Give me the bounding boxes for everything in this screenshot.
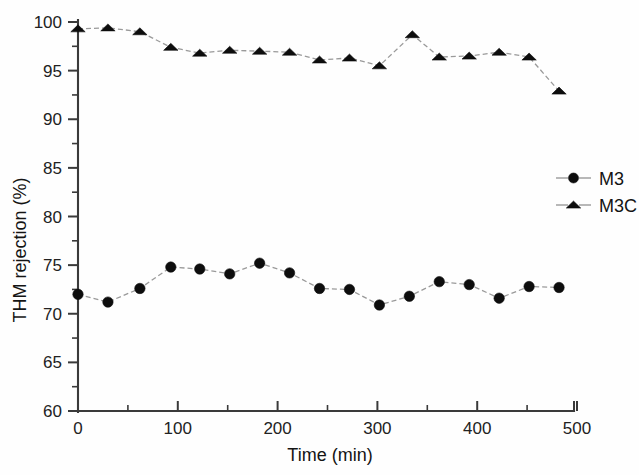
- y-tick-label: 80: [43, 208, 62, 227]
- legend-entry-m3c: M3C: [556, 196, 637, 216]
- x-tick-label: 100: [164, 419, 192, 438]
- chart-plot-area: 6065707580859095100 0100200300400500 THM…: [0, 0, 639, 475]
- data-point-m3c: [492, 48, 506, 55]
- data-point-m3: [284, 268, 294, 278]
- triangle-marker: [566, 201, 580, 208]
- x-axis-title: Time (min): [287, 445, 372, 465]
- data-point-m3c: [252, 47, 266, 54]
- data-point-m3: [166, 262, 176, 272]
- y-axis-title: THM rejection (%): [10, 177, 30, 322]
- data-point-m3c: [462, 52, 476, 59]
- circle-marker: [569, 173, 579, 183]
- data-point-m3: [524, 281, 534, 291]
- data-point-m3: [494, 293, 504, 303]
- x-axis-tick-labels: 0100200300400500: [73, 419, 591, 438]
- x-tick-label: 0: [73, 419, 82, 438]
- x-tick-label: 300: [363, 419, 391, 438]
- data-point-m3: [225, 269, 235, 279]
- data-point-m3: [103, 297, 113, 307]
- y-axis-tick-labels: 6065707580859095100: [34, 13, 62, 421]
- y-tick-label: 95: [43, 62, 62, 81]
- x-tick-label: 200: [263, 419, 291, 438]
- data-point-m3: [404, 291, 414, 301]
- x-tick-label: 500: [563, 419, 591, 438]
- y-tick-label: 65: [43, 353, 62, 372]
- y-tick-label: 85: [43, 159, 62, 178]
- data-point-m3c: [552, 87, 566, 94]
- data-point-m3: [374, 300, 384, 310]
- axis-lines: [77, 20, 574, 412]
- legend-entry-m3: M3: [556, 169, 624, 189]
- data-point-m3: [195, 264, 205, 274]
- data-point-m3c: [405, 31, 419, 38]
- data-point-m3: [344, 284, 354, 294]
- y-tick-label: 100: [34, 13, 62, 32]
- data-point-m3c: [372, 62, 386, 69]
- y-tick-label: 70: [43, 305, 62, 324]
- chart-figure: 6065707580859095100 0100200300400500 THM…: [0, 0, 639, 475]
- data-point-m3c: [71, 25, 85, 32]
- x-tick-label: 400: [463, 419, 491, 438]
- y-axis-ticks: [68, 22, 78, 411]
- data-series-layer: [71, 24, 566, 310]
- legend-label: M3C: [599, 196, 637, 216]
- data-point-m3: [135, 283, 145, 293]
- series-m3: [73, 258, 564, 310]
- y-tick-label: 90: [43, 110, 62, 129]
- data-point-m3: [314, 283, 324, 293]
- data-point-m3: [464, 279, 474, 289]
- data-point-m3: [73, 289, 83, 299]
- data-point-m3: [254, 258, 264, 268]
- legend-label: M3: [599, 169, 624, 189]
- data-point-m3c: [342, 54, 356, 61]
- data-point-m3: [434, 276, 444, 286]
- data-point-m3: [554, 282, 564, 292]
- x-axis-ticks: [78, 401, 577, 411]
- y-tick-label: 75: [43, 256, 62, 275]
- series-m3c: [71, 24, 566, 94]
- chart-legend: M3M3C: [556, 169, 637, 216]
- y-tick-label: 60: [43, 402, 62, 421]
